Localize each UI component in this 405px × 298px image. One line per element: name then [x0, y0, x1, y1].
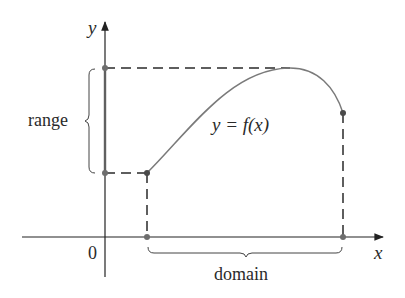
range-brace — [85, 69, 95, 173]
function-label: y = f(x) — [210, 114, 269, 136]
curve-end-dot — [340, 110, 346, 116]
range-min-dot — [102, 170, 108, 176]
range-max-dot — [102, 65, 108, 71]
range-label: range — [28, 110, 68, 130]
domain-range-diagram: y x 0 range domain y = f(x) — [0, 0, 405, 298]
domain-brace — [148, 247, 342, 257]
domain-label: domain — [214, 264, 268, 284]
y-axis-label: y — [86, 17, 97, 38]
curve-start-dot — [144, 170, 150, 176]
origin-label: 0 — [88, 243, 97, 263]
x-axis-label: x — [373, 242, 383, 263]
domain-start-dot — [144, 234, 150, 240]
domain-end-dot — [340, 234, 346, 240]
